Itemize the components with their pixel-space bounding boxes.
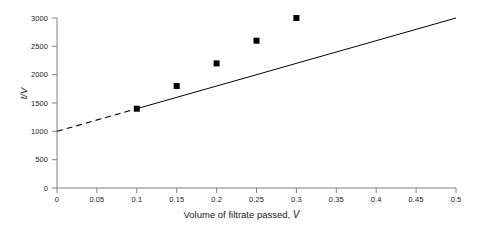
x-axis-title-symbol: V bbox=[293, 209, 300, 220]
data-point bbox=[254, 38, 260, 44]
y-axis-ticks bbox=[52, 18, 57, 188]
x-tick-label-0-05: 0.05 bbox=[79, 195, 115, 204]
y-tick-label-0: 0 bbox=[18, 184, 48, 193]
x-tick-label-0-2: 0.2 bbox=[199, 195, 235, 204]
x-tick-label-0-4: 0.4 bbox=[358, 195, 394, 204]
y-tick-label-1000: 1000 bbox=[18, 127, 48, 136]
x-tick-label-0-25: 0.25 bbox=[239, 195, 275, 204]
data-point bbox=[214, 60, 220, 66]
data-point-markers bbox=[134, 15, 300, 112]
x-tick-label-0-35: 0.35 bbox=[318, 195, 354, 204]
data-point bbox=[174, 83, 180, 89]
y-axis-title: t/V bbox=[18, 80, 29, 108]
data-point bbox=[293, 15, 299, 21]
data-point bbox=[134, 106, 140, 112]
x-axis-title-text: Volume of filtrate passed, bbox=[184, 209, 291, 220]
x-axis-ticks bbox=[57, 188, 456, 193]
chart-container: 0 500 1000 1500 2000 2500 3000 0 0.05 0.… bbox=[0, 0, 483, 230]
x-tick-label-0: 0 bbox=[39, 195, 75, 204]
x-tick-label-0-5: 0.5 bbox=[438, 195, 474, 204]
y-tick-label-3000: 3000 bbox=[18, 14, 48, 23]
x-tick-label-0-15: 0.15 bbox=[159, 195, 195, 204]
x-tick-label-0-45: 0.45 bbox=[398, 195, 434, 204]
extrapolation-dashed-line bbox=[57, 109, 137, 132]
x-tick-label-0-1: 0.1 bbox=[119, 195, 155, 204]
y-tick-label-2000: 2000 bbox=[18, 70, 48, 79]
y-tick-label-500: 500 bbox=[18, 155, 48, 164]
x-tick-label-0-3: 0.3 bbox=[278, 195, 314, 204]
trend-line bbox=[137, 18, 456, 109]
y-tick-label-2500: 2500 bbox=[18, 42, 48, 51]
x-axis-title: Volume of filtrate passed, V bbox=[0, 209, 483, 220]
